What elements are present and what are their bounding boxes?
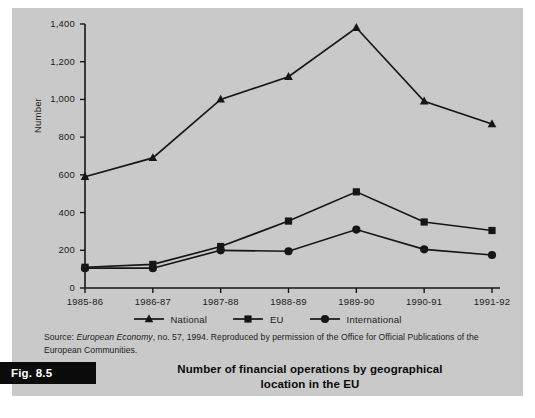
x-axis-tick-label: 1987-88: [187, 296, 255, 307]
legend-label: National: [171, 314, 207, 325]
x-axis-tick-label: 1990-91: [390, 296, 458, 307]
source-prefix: Source:: [44, 332, 76, 342]
series-national: [81, 23, 497, 180]
figure-caption-line-2: location in the EU: [120, 377, 500, 392]
y-axis-tick-label: 600: [12, 169, 75, 180]
legend-label: International: [347, 314, 402, 325]
y-axis-tick-label: 400: [12, 207, 75, 218]
y-axis-tick-label: 1,400: [12, 18, 75, 29]
legend-label: EU: [270, 314, 284, 325]
x-axis-tick-label: 1988-89: [255, 296, 323, 307]
legend-item-international: International: [310, 312, 402, 326]
source-publication-title: European Economy: [76, 332, 152, 342]
series-eu: [81, 188, 495, 271]
y-axis-tick-label: 800: [12, 131, 75, 142]
y-axis-tick-label: 0: [12, 282, 75, 293]
legend-item-eu: EU: [233, 312, 284, 326]
x-axis-tick-label: 1989-90: [322, 296, 390, 307]
y-axis-title: Number: [32, 98, 43, 133]
chart-plot-area: 02004006008001,0001,2001,400 1985-861986…: [12, 8, 523, 308]
y-axis-tick-label: 1,200: [12, 56, 75, 67]
x-axis-tick-label: 1986-87: [119, 296, 187, 307]
legend-item-national: National: [134, 312, 207, 326]
line-chart: [12, 8, 523, 308]
legend-marker-triangle-icon: [134, 312, 164, 326]
y-axis-tick-label: 200: [12, 244, 75, 255]
figure-number-tag: Fig. 8.5: [0, 362, 96, 384]
figure-root: 02004006008001,0001,2001,400 1985-861986…: [0, 0, 535, 418]
x-axis-tick-label: 1991-92: [458, 296, 526, 307]
y-axis-tick-label: 1,000: [12, 93, 75, 104]
legend-marker-circle-icon: [310, 312, 340, 326]
legend-marker-square-icon: [233, 312, 263, 326]
chart-legend: NationalEUInternational: [12, 312, 523, 326]
figure-caption-line-1: Number of financial operations by geogra…: [120, 362, 500, 377]
x-axis-tick-label: 1985-86: [51, 296, 119, 307]
figure-caption: Number of financial operations by geogra…: [120, 362, 500, 392]
source-note: Source: European Economy, no. 57, 1994. …: [44, 331, 494, 356]
